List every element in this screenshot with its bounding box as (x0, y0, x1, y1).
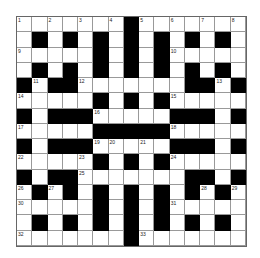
grid-cell[interactable] (231, 32, 246, 47)
grid-cell[interactable]: 27 (48, 185, 63, 200)
grid-cell[interactable]: 6 (170, 17, 185, 32)
grid-cell[interactable]: 20 (109, 139, 124, 154)
grid-cell[interactable] (32, 109, 47, 124)
grid-cell[interactable] (63, 124, 78, 139)
grid-cell[interactable] (185, 154, 200, 169)
grid-cell[interactable] (154, 17, 169, 32)
grid-cell[interactable] (139, 170, 154, 185)
grid-cell[interactable] (139, 32, 154, 47)
grid-cell[interactable] (109, 231, 124, 246)
grid-cell[interactable]: 21 (139, 139, 154, 154)
grid-cell[interactable] (170, 215, 185, 230)
grid-cell[interactable] (109, 185, 124, 200)
grid-cell[interactable] (78, 124, 93, 139)
grid-cell[interactable] (154, 109, 169, 124)
grid-cell[interactable]: 32 (17, 231, 32, 246)
grid-cell[interactable] (215, 124, 230, 139)
grid-cell[interactable]: 30 (17, 200, 32, 215)
grid-cell[interactable]: 4 (109, 17, 124, 32)
grid-cell[interactable] (215, 154, 230, 169)
grid-cell[interactable] (139, 154, 154, 169)
grid-cell[interactable]: 1 (17, 17, 32, 32)
grid-cell[interactable]: 12 (78, 78, 93, 93)
grid-cell[interactable] (200, 32, 215, 47)
grid-cell[interactable] (200, 154, 215, 169)
grid-cell[interactable]: 23 (78, 154, 93, 169)
grid-cell[interactable]: 29 (231, 185, 246, 200)
grid-cell[interactable] (109, 63, 124, 78)
grid-cell[interactable] (139, 48, 154, 63)
grid-cell[interactable] (48, 231, 63, 246)
grid-cell[interactable]: 7 (200, 17, 215, 32)
grid-cell[interactable] (215, 109, 230, 124)
grid-cell[interactable] (78, 231, 93, 246)
grid-cell[interactable] (32, 154, 47, 169)
grid-cell[interactable] (185, 124, 200, 139)
grid-cell[interactable]: 14 (17, 93, 32, 108)
grid-cell[interactable] (170, 231, 185, 246)
grid-cell[interactable]: 26 (17, 185, 32, 200)
grid-cell[interactable]: 11 (32, 78, 47, 93)
grid-cell[interactable] (63, 231, 78, 246)
grid-cell[interactable] (48, 154, 63, 169)
grid-cell[interactable] (32, 17, 47, 32)
grid-cell[interactable] (17, 215, 32, 230)
grid-cell[interactable] (48, 48, 63, 63)
grid-cell[interactable] (109, 215, 124, 230)
grid-cell[interactable] (200, 48, 215, 63)
grid-cell[interactable] (139, 78, 154, 93)
grid-cell[interactable] (32, 170, 47, 185)
grid-cell[interactable]: 2 (48, 17, 63, 32)
grid-cell[interactable] (109, 48, 124, 63)
grid-cell[interactable] (48, 93, 63, 108)
grid-cell[interactable] (231, 93, 246, 108)
grid-cell[interactable] (154, 78, 169, 93)
grid-cell[interactable]: 19 (93, 139, 108, 154)
grid-cell[interactable] (185, 93, 200, 108)
grid-cell[interactable] (109, 93, 124, 108)
grid-cell[interactable]: 18 (170, 124, 185, 139)
grid-cell[interactable] (170, 63, 185, 78)
grid-cell[interactable] (215, 48, 230, 63)
grid-cell[interactable]: 15 (170, 93, 185, 108)
grid-cell[interactable] (231, 231, 246, 246)
grid-cell[interactable] (93, 231, 108, 246)
grid-cell[interactable] (215, 170, 230, 185)
grid-cell[interactable]: 5 (139, 17, 154, 32)
grid-cell[interactable] (63, 17, 78, 32)
grid-cell[interactable] (231, 215, 246, 230)
grid-cell[interactable] (17, 63, 32, 78)
grid-cell[interactable] (63, 200, 78, 215)
grid-cell[interactable] (185, 200, 200, 215)
grid-cell[interactable] (78, 63, 93, 78)
grid-cell[interactable] (139, 93, 154, 108)
grid-cell[interactable] (32, 200, 47, 215)
grid-cell[interactable]: 33 (139, 231, 154, 246)
grid-cell[interactable] (200, 200, 215, 215)
grid-cell[interactable] (109, 200, 124, 215)
grid-cell[interactable]: 3 (78, 17, 93, 32)
grid-cell[interactable] (139, 200, 154, 215)
grid-cell[interactable]: 24 (170, 154, 185, 169)
grid-cell[interactable] (78, 48, 93, 63)
grid-cell[interactable] (215, 231, 230, 246)
grid-cell[interactable] (200, 215, 215, 230)
grid-cell[interactable]: 25 (78, 170, 93, 185)
grid-cell[interactable] (200, 63, 215, 78)
grid-cell[interactable] (93, 78, 108, 93)
grid-cell[interactable]: 10 (170, 48, 185, 63)
grid-cell[interactable] (231, 63, 246, 78)
grid-cell[interactable] (170, 32, 185, 47)
grid-cell[interactable] (63, 93, 78, 108)
grid-cell[interactable] (185, 231, 200, 246)
grid-cell[interactable] (32, 124, 47, 139)
grid-cell[interactable] (170, 78, 185, 93)
grid-cell[interactable] (139, 63, 154, 78)
grid-cell[interactable]: 9 (17, 48, 32, 63)
grid-cell[interactable] (48, 63, 63, 78)
grid-cell[interactable] (48, 32, 63, 47)
grid-cell[interactable] (32, 48, 47, 63)
grid-cell[interactable] (93, 170, 108, 185)
grid-cell[interactable] (63, 154, 78, 169)
grid-cell[interactable] (170, 170, 185, 185)
